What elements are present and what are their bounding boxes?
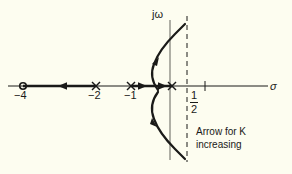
axis-label-minus-4: −4 — [14, 89, 27, 101]
locus-branch-lower — [152, 92, 185, 159]
locus-branch-upper — [152, 24, 185, 90]
asymptote-label-one-half: 1 2 — [190, 90, 198, 115]
axis-label-minus-2: −2 — [88, 89, 101, 101]
annotation-arrow-for-k-increasing: Arrow for K increasing — [196, 126, 246, 151]
axis-label-minus-1: −1 — [124, 89, 137, 101]
locus-arrow-right-a — [138, 82, 147, 90]
fraction-numerator: 1 — [190, 90, 198, 102]
locus-arrow-left — [58, 82, 67, 90]
annotation-line-1: Arrow for K — [196, 126, 246, 139]
annotation-line-2: increasing — [196, 139, 246, 152]
axis-label-jomega: jω — [152, 8, 163, 20]
axis-label-sigma: σ — [270, 80, 277, 92]
fraction-denominator: 2 — [190, 104, 198, 116]
locus-arrow-right-b — [158, 82, 167, 90]
root-locus-figure: −4 −2 −1 jω σ 1 2 Arrow for K increasing — [0, 0, 292, 174]
root-locus-canvas — [0, 0, 292, 174]
